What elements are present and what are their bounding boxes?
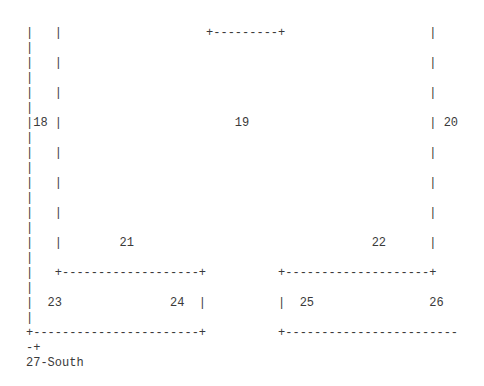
map-line: | | | bbox=[26, 86, 458, 101]
map-line: | | | bbox=[26, 206, 458, 221]
map-line: | bbox=[26, 191, 458, 206]
map-line: | | +---------+ | bbox=[26, 26, 458, 41]
map-line: | | | bbox=[26, 56, 458, 71]
map-line: | bbox=[26, 251, 458, 266]
map-line: | | | bbox=[26, 176, 458, 191]
map-line: | bbox=[26, 101, 458, 116]
map-line: | bbox=[26, 161, 458, 176]
ascii-floor-plan: | | +---------+ ||| | ||| | |||18 | bbox=[26, 26, 458, 371]
map-line: | bbox=[26, 71, 458, 86]
map-line-corner: -+ bbox=[26, 341, 458, 356]
map-line-room-27-south: 27-South bbox=[26, 356, 458, 371]
map-line: | bbox=[26, 41, 458, 56]
map-line-rooms-23-24-25-26: | 23 24 | | 25 26 bbox=[26, 296, 458, 311]
map-line: | bbox=[26, 311, 458, 326]
map-line-wall: +-----------------------+ +-------------… bbox=[26, 326, 458, 341]
map-line: | bbox=[26, 281, 458, 296]
map-line-rooms-21-22: | | 21 22 | bbox=[26, 236, 458, 251]
map-line: | bbox=[26, 131, 458, 146]
map-line-rooms-18-19-20: |18 | 19 | 20 bbox=[26, 116, 458, 131]
map-line-wall: | +-------------------+ +---------------… bbox=[26, 266, 458, 281]
map-line: | bbox=[26, 221, 458, 236]
map-line: | | | bbox=[26, 146, 458, 161]
